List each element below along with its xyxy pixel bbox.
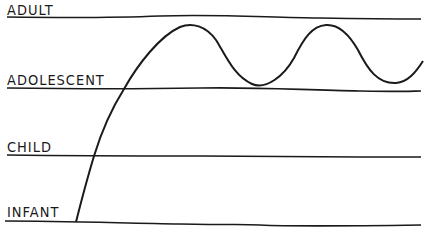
diagram-canvas [0, 0, 427, 238]
infant-level-line [5, 221, 421, 226]
development-curve [76, 25, 423, 222]
child-level-line [7, 155, 421, 157]
stage-label-infant: INFANT [7, 206, 59, 220]
stage-label-adult: ADULT [7, 4, 54, 18]
adult-level-line [7, 15, 421, 19]
stage-label-adolescent: ADOLESCENT [7, 74, 105, 88]
stage-label-child: CHILD [7, 141, 52, 155]
development-diagram: ADULT ADOLESCENT CHILD INFANT [0, 0, 427, 238]
